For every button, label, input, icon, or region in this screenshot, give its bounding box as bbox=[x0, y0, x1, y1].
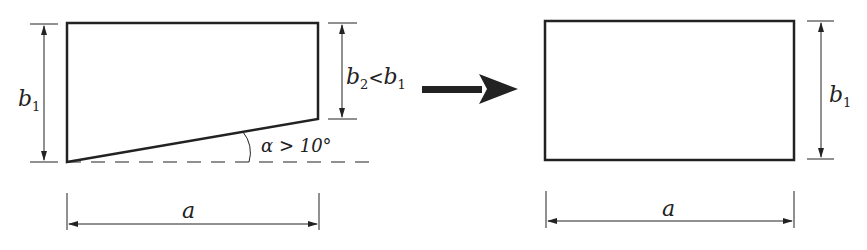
right-figure: b1 a bbox=[545, 21, 851, 228]
transform-arrow-icon bbox=[422, 74, 518, 104]
angle-arc bbox=[243, 132, 250, 162]
rectangle-shape bbox=[545, 21, 794, 160]
label-a-left: a bbox=[182, 198, 195, 223]
dimension-b1-left bbox=[30, 24, 58, 162]
left-figure: b1 b2<b1 α > 10° a bbox=[18, 23, 406, 230]
label-b1-left: b1 bbox=[18, 86, 40, 114]
label-b2-lt-b1: b2<b1 bbox=[346, 64, 406, 92]
label-b1-right: b1 bbox=[829, 82, 851, 110]
angle-label: α > 10° bbox=[261, 135, 332, 156]
label-a-right: a bbox=[662, 196, 675, 221]
diagram-canvas: b1 b2<b1 α > 10° a b1 bbox=[0, 0, 867, 250]
